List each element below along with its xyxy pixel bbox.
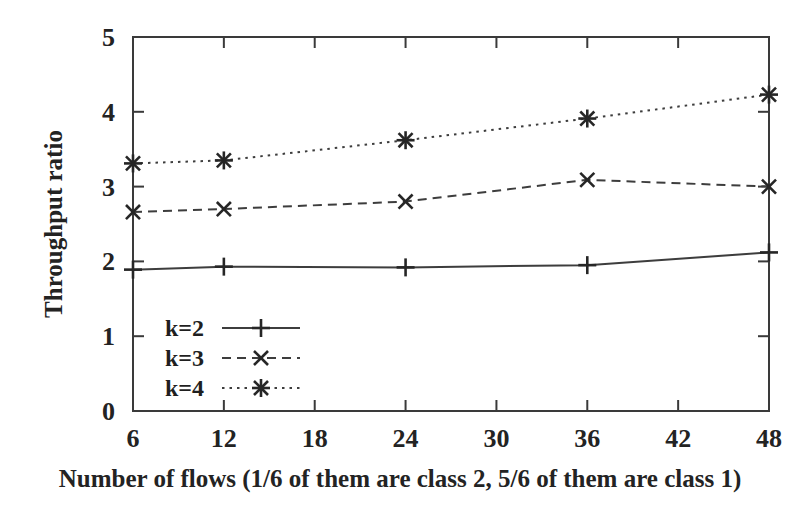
x-tick-label: 24 — [393, 424, 419, 453]
legend-item-k=2: k=2 — [165, 315, 300, 341]
y-axis-ticks — [133, 112, 769, 336]
series-k=2 — [124, 243, 778, 278]
data-point-marker — [252, 319, 270, 337]
data-point-marker — [578, 110, 596, 128]
y-tick-label: 4 — [102, 98, 115, 127]
data-point-marker — [397, 258, 415, 276]
series-line-k=4 — [133, 95, 769, 164]
line-chart: 012345 612182430364248 k=2k=3k=4 Through… — [0, 0, 800, 506]
x-axis-title: Number of flows (1/6 of them are class 2… — [59, 465, 742, 493]
data-point-marker — [760, 86, 778, 104]
y-tick-label: 2 — [102, 247, 115, 276]
data-point-marker — [124, 154, 142, 172]
x-tick-label: 12 — [211, 424, 237, 453]
chart-figure: 012345 612182430364248 k=2k=3k=4 Through… — [0, 0, 800, 506]
x-tick-label: 6 — [127, 424, 140, 453]
y-axis-title: Throughput ratio — [40, 130, 67, 318]
y-tick-label: 1 — [102, 322, 115, 351]
data-point-marker — [397, 131, 415, 149]
chart-legend: k=2k=3k=4 — [165, 315, 300, 401]
series-k=4 — [124, 86, 778, 173]
data-point-marker — [215, 151, 233, 169]
legend-label-k=3: k=3 — [165, 345, 204, 371]
data-point-marker — [252, 379, 270, 397]
legend-item-k=4: k=4 — [165, 375, 300, 401]
x-tick-label: 48 — [756, 424, 782, 453]
series-line-k=3 — [133, 180, 769, 212]
data-point-marker — [215, 258, 233, 276]
y-tick-label: 5 — [102, 23, 115, 52]
data-series-layer — [124, 86, 778, 279]
plot-frame — [133, 37, 769, 411]
x-tick-label: 18 — [302, 424, 328, 453]
legend-label-k=4: k=4 — [165, 375, 204, 401]
legend-label-k=2: k=2 — [165, 315, 204, 341]
y-tick-label: 3 — [102, 173, 115, 202]
x-tick-label: 30 — [483, 424, 509, 453]
x-tick-label: 36 — [574, 424, 600, 453]
y-tick-label: 0 — [102, 397, 115, 426]
data-point-marker — [760, 243, 778, 261]
y-axis-tick-labels: 012345 — [102, 23, 115, 426]
data-point-marker — [578, 256, 596, 274]
x-axis-ticks — [224, 37, 678, 411]
data-point-marker — [124, 261, 142, 279]
x-axis-tick-labels: 612182430364248 — [127, 424, 783, 453]
x-tick-label: 42 — [665, 424, 691, 453]
legend-item-k=3: k=3 — [165, 345, 300, 371]
series-k=3 — [126, 173, 776, 219]
